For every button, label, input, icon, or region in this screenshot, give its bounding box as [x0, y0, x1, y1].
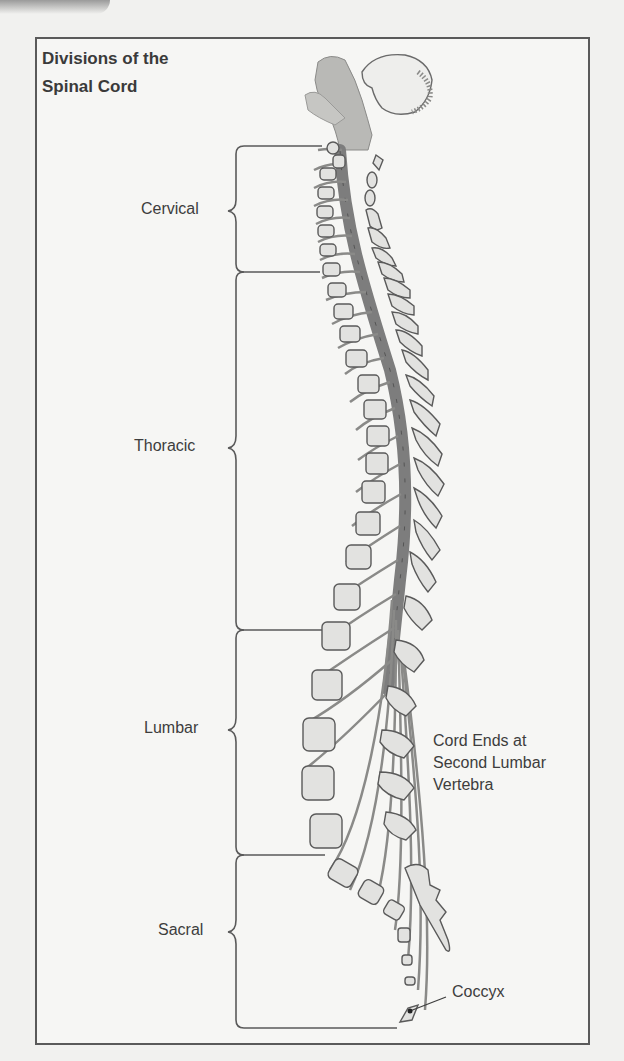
cord-end-line-3: Vertebra	[433, 774, 546, 796]
label-sacral: Sacral	[158, 921, 203, 939]
label-coccyx: Coccyx	[452, 983, 504, 1001]
label-lumbar: Lumbar	[144, 719, 198, 737]
label-cervical: Cervical	[141, 200, 199, 218]
cord-end-line-2: Second Lumbar	[433, 752, 546, 774]
cord-end-annotation: Cord Ends at Second Lumbar Vertebra	[433, 730, 546, 796]
spine-illustration	[0, 0, 624, 1061]
cord-end-line-1: Cord Ends at	[433, 730, 546, 752]
sacral-segments	[326, 857, 449, 1022]
brainstem	[305, 55, 432, 150]
label-thoracic: Thoracic	[134, 437, 195, 455]
